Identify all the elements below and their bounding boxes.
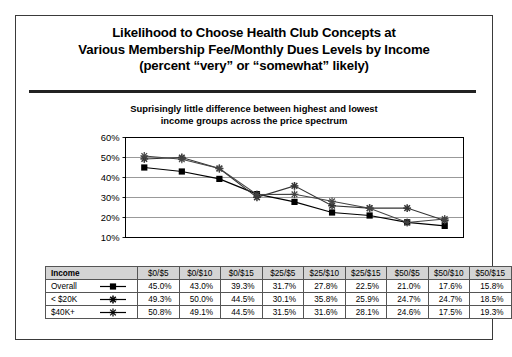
table-cell: 28.1% — [345, 306, 387, 319]
table-header-col-6: $50/$5 — [387, 267, 429, 280]
data-point-marker-filled-square — [329, 209, 335, 215]
chart-subtitle: Suprisingly little difference between hi… — [16, 103, 492, 127]
table-cell: 24.7% — [387, 293, 429, 306]
table-cell: 44.5% — [221, 306, 263, 319]
table-header-col-2: $0/$15 — [221, 267, 263, 280]
table-cell: 43.0% — [179, 280, 221, 293]
title-divider — [29, 90, 476, 93]
table-cell: 39.3% — [221, 280, 263, 293]
table-cell: 27.8% — [304, 280, 346, 293]
series-legend-label: < $20K — [51, 295, 77, 304]
table-cell: 50.8% — [138, 306, 180, 319]
table-cell: 19.3% — [470, 306, 512, 319]
data-table-wrap: Income $0/$5 $0/$10 $0/$15 $25/$5 $25/$1… — [45, 266, 471, 319]
legend-marker-asterisk-icon — [100, 307, 126, 318]
subtitle-line-2: income groups across the price spectrum — [16, 115, 492, 127]
table-header-col-5: $25/$15 — [345, 267, 387, 280]
table-cell: 18.5% — [470, 293, 512, 306]
line-chart: 10%20%30%40%50%60% — [63, 134, 468, 252]
title-line-2: Various Membership Fee/Monthly Dues Leve… — [16, 42, 492, 59]
page-title: Likelihood to Choose Health Club Concept… — [16, 25, 492, 75]
table-header-col-1: $0/$10 — [179, 267, 221, 280]
table-row: Overall45.0%43.0%39.3%31.7%27.8%22.5%21.… — [46, 280, 512, 293]
table-cell: 50.0% — [179, 293, 221, 306]
table-cell: 31.7% — [262, 280, 304, 293]
data-point-marker-asterisk — [178, 155, 186, 163]
series-legend-label: $40K+ — [51, 308, 75, 317]
title-line-3: (percent “very” or “somewhat” likely) — [16, 58, 492, 75]
y-axis-tick-labels: 10%20%30%40%50%60% — [101, 134, 120, 243]
table-header-col-8: $50/$15 — [470, 267, 512, 280]
chart-svg: 10%20%30%40%50%60% — [63, 134, 468, 252]
data-point-marker-filled-square — [291, 199, 297, 205]
table-cell: 30.1% — [262, 293, 304, 306]
data-point-marker-star — [291, 182, 299, 190]
y-tick-label: 20% — [101, 212, 120, 223]
table-header-income: Income — [46, 267, 138, 280]
subtitle-line-1: Suprisingly little difference between hi… — [16, 103, 492, 115]
y-tick-label: 30% — [101, 192, 120, 203]
table-row-header-2: $40K+ — [46, 306, 138, 319]
data-point-marker-asterisk — [215, 165, 223, 173]
table-cell: 31.6% — [304, 306, 346, 319]
table-cell: 49.1% — [179, 306, 221, 319]
data-point-marker-filled-square — [179, 168, 185, 174]
data-point-marker-asterisk — [403, 219, 411, 227]
data-point-marker-asterisk — [291, 190, 299, 198]
data-point-marker-filled-square — [110, 283, 116, 289]
table-header-row: Income $0/$5 $0/$10 $0/$15 $25/$5 $25/$1… — [46, 267, 512, 280]
y-tick-label: 60% — [101, 134, 120, 143]
table-row-header-1: < $20K — [46, 293, 138, 306]
y-tick-label: 50% — [101, 152, 120, 163]
legend-marker-star-icon — [100, 294, 126, 305]
table-cell: 24.6% — [387, 306, 429, 319]
table-row: $40K+50.8%49.1%44.5%31.5%31.6%28.1%24.6%… — [46, 306, 512, 319]
table-row-header-0: Overall — [46, 280, 138, 293]
table-cell: 31.5% — [262, 306, 304, 319]
table-cell: 49.3% — [138, 293, 180, 306]
data-point-marker-filled-square — [216, 176, 222, 182]
data-point-marker-asterisk — [441, 215, 449, 223]
data-point-marker-filled-square — [367, 212, 373, 218]
table-cell: 45.0% — [138, 280, 180, 293]
data-point-marker-asterisk — [140, 152, 148, 160]
table-header-col-0: $0/$5 — [138, 267, 180, 280]
series-legend-label: Overall — [51, 282, 77, 291]
data-point-marker-filled-square — [141, 164, 147, 170]
data-point-marker-asterisk — [253, 191, 261, 199]
legend-marker-filled-square-icon — [100, 281, 126, 292]
data-point-marker-asterisk — [366, 204, 374, 212]
series-20k — [140, 154, 448, 225]
data-table: Income $0/$5 $0/$10 $0/$15 $25/$5 $25/$1… — [45, 266, 512, 319]
table-cell: 17.6% — [428, 280, 470, 293]
table-cell: 22.5% — [345, 280, 387, 293]
table-cell: 25.9% — [345, 293, 387, 306]
table-body: Overall45.0%43.0%39.3%31.7%27.8%22.5%21.… — [46, 280, 512, 319]
table-cell: 44.5% — [221, 293, 263, 306]
data-point-marker-asterisk — [109, 308, 117, 316]
y-tick-label: 40% — [101, 172, 120, 183]
table-cell: 15.8% — [470, 280, 512, 293]
table-header-col-3: $25/$5 — [262, 267, 304, 280]
data-point-marker-star — [109, 295, 117, 303]
y-tick-label: 10% — [101, 232, 120, 243]
table-cell: 17.5% — [428, 306, 470, 319]
data-point-marker-star — [403, 204, 411, 212]
table-row: < $20K49.3%50.0%44.5%30.1%35.8%25.9%24.7… — [46, 293, 512, 306]
table-header-col-4: $25/$10 — [304, 267, 346, 280]
table-header-col-7: $50/$10 — [428, 267, 470, 280]
table-cell: 35.8% — [304, 293, 346, 306]
table-header: Income $0/$5 $0/$10 $0/$15 $25/$5 $25/$1… — [46, 267, 512, 280]
title-line-1: Likelihood to Choose Health Club Concept… — [16, 25, 492, 42]
table-cell: 24.7% — [428, 293, 470, 306]
data-point-marker-asterisk — [328, 197, 336, 205]
table-cell: 21.0% — [387, 280, 429, 293]
slide-frame: Likelihood to Choose Health Club Concept… — [15, 15, 493, 340]
